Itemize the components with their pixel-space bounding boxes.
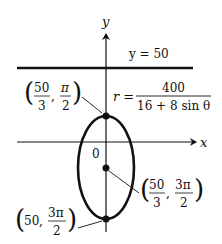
theta-numerator: 3π — [48, 206, 64, 220]
focus-dot — [103, 165, 110, 172]
theta-numerator: π — [60, 81, 70, 95]
equation-numerator: 400 — [162, 81, 185, 95]
directrix-label: y = 50 — [128, 47, 169, 61]
r-denominator: 3 — [38, 99, 46, 113]
theta-numerator: 3π — [175, 178, 191, 192]
bottom-vertex-dot — [103, 216, 110, 223]
theta-denominator: 2 — [53, 224, 61, 238]
comma: , — [166, 186, 170, 200]
paren: ) — [72, 77, 82, 107]
paren: ) — [67, 204, 77, 234]
r-numerator: 50 — [34, 81, 49, 95]
polar-ellipse-diagram: y x y = 50 0 r = 400 16 + 8 sin θ ( 50 3… — [0, 0, 222, 244]
comma: , — [51, 89, 55, 103]
y-axis-label: y — [101, 14, 110, 29]
bottom-vertex-label: ( 50 , 3π 2 ) — [15, 204, 77, 238]
comma: , — [39, 214, 43, 228]
bottom-vertex-leader — [78, 221, 102, 228]
paren: ) — [194, 174, 204, 204]
focus-label: ( 50 3 , 3π 2 ) — [140, 174, 204, 210]
theta-denominator: 2 — [180, 196, 188, 210]
x-axis-label: x — [200, 135, 208, 150]
r-numerator: 50 — [149, 178, 164, 192]
r-denominator: 3 — [153, 196, 161, 210]
paren: ( — [24, 77, 34, 107]
equation-lhs: r = — [113, 89, 134, 104]
origin-label: 0 — [92, 147, 100, 161]
top-vertex-label: ( 50 3 , π 2 ) — [24, 77, 82, 113]
polar-equation: r = 400 16 + 8 sin θ — [113, 81, 211, 113]
r-value: 50 — [24, 214, 39, 228]
top-vertex-dot — [103, 113, 110, 120]
theta-denominator: 2 — [62, 99, 70, 113]
top-vertex-leader — [82, 97, 102, 113]
equation-denominator: 16 + 8 sin θ — [137, 99, 210, 113]
